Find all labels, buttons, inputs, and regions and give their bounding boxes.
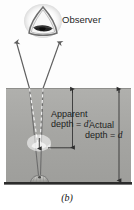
apparent-depth-label-line2: depth = d′	[51, 120, 91, 130]
refraction-apparent-depth-figure: Observer Apparent depth = d′ Actual dept…	[0, 0, 134, 210]
refracted-ray-group	[17, 43, 60, 89]
actual-depth-label-line2: depth = d	[85, 131, 123, 141]
pool-floor-shadow	[4, 184, 132, 185]
actual-depth-prefix: depth =	[85, 130, 118, 140]
arrow-up-icon-left	[17, 43, 30, 89]
figure-caption: (b)	[0, 192, 134, 203]
apparent-depth-prefix: depth =	[51, 119, 84, 129]
arrow-up-icon-right	[43, 43, 60, 89]
figure-vector-art	[0, 0, 134, 210]
actual-depth-symbol: d	[118, 130, 123, 140]
observer-label: Observer	[62, 15, 101, 25]
